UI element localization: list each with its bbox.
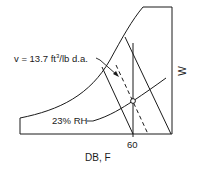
specific-volume-line-right bbox=[125, 37, 171, 134]
specific-volume-label: v = 13.7 ft3/lb d.a. bbox=[14, 53, 88, 64]
specific-volume-line-left bbox=[102, 67, 133, 134]
y-axis-label: W bbox=[178, 66, 188, 75]
rh-label: 23% RH bbox=[52, 116, 87, 126]
state-point bbox=[131, 99, 136, 104]
chart-frame bbox=[20, 7, 172, 134]
x-axis-label: DB, F bbox=[85, 153, 111, 163]
x-tick-label-60: 60 bbox=[127, 140, 138, 150]
psychrometric-chart bbox=[0, 0, 201, 169]
